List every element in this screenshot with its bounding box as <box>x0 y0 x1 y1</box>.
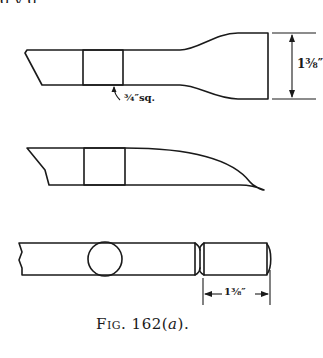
caption-paren-close: ). <box>178 315 190 333</box>
caption-prefix: Fig. <box>96 315 126 333</box>
figure-caption: Fig. 162(a). <box>96 315 189 333</box>
view-1-flared-blade <box>25 33 316 100</box>
square-section-hatch <box>84 148 125 185</box>
view-2-curved-blade <box>27 148 264 190</box>
arrow-left-icon <box>204 291 212 297</box>
arrow-down-icon <box>289 90 295 98</box>
arrow-up-icon <box>289 34 295 42</box>
square-section-hatch <box>83 50 123 85</box>
vertical-dimension-label: 1⅜″ <box>297 57 323 71</box>
caption-letter: a <box>168 315 177 333</box>
section-size-label: ¾″sq. <box>124 92 155 103</box>
caption-number: 162 <box>132 315 162 333</box>
horizontal-dimension-label: 1⅜″ <box>224 286 246 297</box>
leader-arrow-icon <box>112 86 117 92</box>
round-section-hatch <box>88 242 122 276</box>
arrow-right-icon <box>261 291 269 297</box>
